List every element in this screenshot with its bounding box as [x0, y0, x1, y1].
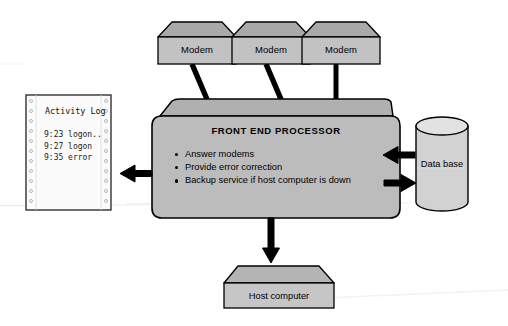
connector-modem-2: [266, 64, 283, 104]
modem-connectors: [192, 64, 336, 104]
activity-log-entry: 9:35 error: [44, 152, 92, 164]
database-cylinder[interactable]: [416, 117, 468, 211]
connector-modem-1: [192, 64, 209, 104]
processor-bullet-item: Backup service if host computer is down: [174, 174, 351, 187]
modem-box-2[interactable]: [232, 22, 310, 64]
activity-log-entry: 9:23 logon..: [44, 129, 102, 141]
host-computer-box[interactable]: [224, 266, 334, 308]
processor-bullet-item: Provide error correction: [174, 161, 351, 174]
activity-log-title: Activity Log: [45, 106, 106, 116]
modem-box-1[interactable]: [158, 22, 236, 64]
diagram-canvas: Modem Modem Modem FRONT END PROCESSOR An…: [0, 0, 508, 326]
arrow-processor-to-log: [120, 165, 152, 182]
activity-log-entry: 9:27 logon: [44, 141, 92, 153]
processor-bullet-list: Answer modems Provide error correction B…: [174, 148, 351, 188]
arrow-processor-to-host: [263, 218, 280, 263]
processor-bullet-item: Answer modems: [174, 148, 351, 161]
modem-box-3[interactable]: [302, 22, 380, 64]
